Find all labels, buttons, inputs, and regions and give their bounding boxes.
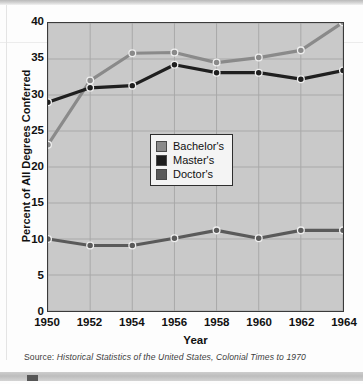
- data-point: [255, 54, 262, 61]
- data-point: [87, 242, 94, 249]
- data-point: [213, 227, 220, 234]
- y-axis-tick-label: 30: [16, 89, 44, 101]
- data-point: [340, 227, 343, 234]
- data-point: [255, 69, 262, 76]
- data-point: [129, 242, 136, 249]
- legend-item: Master's: [156, 153, 224, 167]
- data-point: [255, 235, 262, 242]
- y-axis-tick-label: 5: [16, 270, 44, 282]
- x-axis-tick-labels: 19501952195419561958196019621964: [47, 316, 344, 332]
- legend-label: Doctor's: [173, 168, 213, 180]
- data-point: [297, 76, 304, 83]
- y-axis-tick-labels: 4035302520151050: [13, 22, 44, 312]
- x-axis-tick-label: 1960: [239, 316, 279, 328]
- legend-swatch-icon: [156, 155, 167, 166]
- data-point: [48, 141, 51, 148]
- data-point: [297, 227, 304, 234]
- y-axis-tick-label: 35: [16, 52, 44, 64]
- data-point: [340, 67, 343, 74]
- data-point: [48, 99, 51, 106]
- y-axis-tick-label: 25: [16, 125, 44, 137]
- series-doctors: [48, 227, 343, 249]
- source-text: Historical Statistics of the United Stat…: [54, 352, 306, 362]
- data-point: [213, 59, 220, 66]
- x-axis-tick-label: 1964: [324, 316, 363, 328]
- x-axis-tick-label: 1952: [69, 316, 109, 328]
- data-point: [129, 50, 136, 57]
- source-note: Source: Historical Statistics of the Uni…: [24, 352, 306, 362]
- x-axis-tick-label: 1962: [282, 316, 322, 328]
- data-point: [48, 236, 51, 243]
- data-point: [87, 84, 94, 91]
- legend-item: Doctor's: [156, 167, 224, 181]
- data-point: [129, 82, 136, 89]
- legend-swatch-icon: [156, 169, 167, 180]
- x-axis-title: Year: [47, 334, 344, 346]
- x-axis-tick-label: 1954: [112, 316, 152, 328]
- page-footer-tab: [27, 375, 38, 381]
- y-axis-tick-label: 40: [16, 16, 44, 28]
- legend-label: Master's: [173, 154, 214, 166]
- chart-page: Percent of All Degrees Conferred 4035302…: [0, 0, 363, 384]
- data-point: [171, 49, 178, 56]
- data-point: [171, 61, 178, 68]
- data-point: [87, 77, 94, 84]
- x-axis-tick-label: 1950: [27, 316, 67, 328]
- data-point: [213, 69, 220, 76]
- data-point: [297, 47, 304, 54]
- source-label: Source:: [24, 352, 54, 362]
- y-axis-tick-label: 10: [16, 234, 44, 246]
- legend-swatch-icon: [156, 141, 167, 152]
- chart-legend: Bachelor'sMaster'sDoctor's: [150, 134, 233, 186]
- y-axis-tick-label: 15: [16, 197, 44, 209]
- page-top-strip: [0, 0, 363, 5]
- data-point: [171, 235, 178, 242]
- page-footer-bar: [0, 372, 363, 381]
- x-axis-tick-label: 1956: [154, 316, 194, 328]
- page-left-rule: [6, 5, 7, 360]
- y-axis-tick-label: 20: [16, 161, 44, 173]
- legend-label: Bachelor's: [173, 140, 224, 152]
- legend-item: Bachelor's: [156, 139, 224, 153]
- x-axis-tick-label: 1958: [197, 316, 237, 328]
